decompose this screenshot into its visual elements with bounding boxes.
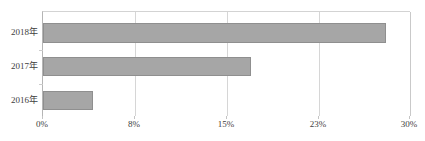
y-axis-label-2017: 2017年	[0, 62, 38, 71]
y-axis-label-2018: 2018年	[0, 28, 38, 37]
x-axis-label-30pct: 30%	[401, 120, 418, 129]
x-axis-label-0pct: 0%	[36, 120, 48, 129]
x-axis-label-15pct: 15%	[218, 120, 235, 129]
y-axis-label-2016: 2016年	[0, 96, 38, 105]
y-axis-labels: 2018年 2017年 2016年	[0, 0, 425, 141]
x-axis-label-8pct: 8%	[128, 120, 140, 129]
x-axis-label-23pct: 23%	[310, 120, 327, 129]
bar-chart-figure: 2018年 2017年 2016年 0% 8% 15% 23% 30%	[0, 0, 425, 141]
